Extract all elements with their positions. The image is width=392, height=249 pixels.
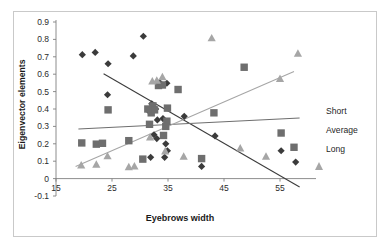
chart-legend: Short Average Long: [315, 102, 385, 159]
legend-label-short: Short: [326, 107, 347, 116]
x-tick-label: 35: [156, 184, 180, 193]
legend-item-long[interactable]: Long: [315, 140, 385, 159]
x-tick-label: 25: [100, 184, 124, 193]
data-point-average: [151, 106, 158, 113]
diamond-marker-icon: [315, 107, 324, 116]
data-point-long: [276, 74, 284, 81]
square-marker-icon: [315, 126, 324, 135]
data-point-average: [146, 121, 153, 128]
data-point-short: [154, 116, 161, 123]
data-point-long: [130, 162, 138, 169]
x-tick-label: 15: [44, 184, 68, 193]
y-tick-label: 0.4: [23, 105, 49, 114]
data-point-short: [92, 49, 99, 56]
data-point-short: [211, 132, 218, 139]
data-point-short: [147, 154, 154, 161]
data-point-average: [99, 140, 106, 147]
y-tick-label: 0.2: [23, 140, 49, 149]
y-tick-label: 0.7: [23, 53, 49, 62]
data-point-short: [198, 163, 205, 170]
data-point-average: [210, 109, 217, 116]
y-tick-label: 0.1: [23, 157, 49, 166]
y-tick-label: 0.6: [23, 70, 49, 79]
data-point-short: [162, 140, 169, 147]
legend-label-long: Long: [326, 145, 345, 154]
trendline-average: [78, 118, 299, 129]
y-tick-label: 0.5: [23, 88, 49, 97]
legend-item-short[interactable]: Short: [315, 102, 385, 121]
data-point-short: [104, 91, 111, 98]
scatter-chart-figure: Eigenvector elements Eyebrows width 0.90…: [0, 0, 392, 249]
data-point-long: [262, 152, 270, 159]
data-point-average: [139, 155, 146, 162]
y-tick-label: 0.9: [23, 18, 49, 27]
data-point-short: [278, 147, 285, 154]
data-point-short: [161, 154, 168, 161]
data-point-average: [125, 137, 132, 144]
x-tick-label: 55: [268, 184, 292, 193]
x-axis-title: Eyebrows width: [70, 214, 290, 223]
data-point-long: [294, 49, 302, 56]
y-tick-label: 0.3: [23, 122, 49, 131]
y-tick-label: 0: [23, 175, 49, 184]
data-point-average: [160, 132, 167, 139]
data-point-average: [174, 86, 181, 93]
data-point-long: [180, 152, 188, 159]
data-point-short: [292, 158, 299, 165]
data-point-average: [164, 104, 171, 111]
y-tick-label: 0.8: [23, 35, 49, 44]
data-point-average: [277, 129, 284, 136]
data-point-average: [163, 117, 170, 124]
data-point-long: [236, 144, 244, 151]
triangle-marker-icon: [315, 145, 324, 154]
data-point-long: [103, 152, 111, 159]
data-point-average: [78, 139, 85, 146]
data-point-short: [130, 52, 137, 59]
legend-item-average[interactable]: Average: [315, 121, 385, 140]
legend-label-average: Average: [326, 126, 358, 135]
data-point-average: [240, 64, 247, 71]
data-point-average: [198, 155, 205, 162]
data-point-short: [104, 60, 111, 67]
data-point-long: [208, 34, 216, 41]
data-point-average: [104, 106, 111, 113]
data-point-short: [79, 51, 86, 58]
data-point-average: [144, 105, 151, 112]
data-point-long: [77, 161, 85, 168]
y-tick-label: -0.1: [23, 192, 49, 201]
data-point-short: [140, 33, 147, 40]
data-point-long: [92, 160, 100, 167]
x-tick-label: 45: [212, 184, 236, 193]
data-point-average: [290, 144, 297, 151]
data-point-long: [158, 73, 166, 80]
